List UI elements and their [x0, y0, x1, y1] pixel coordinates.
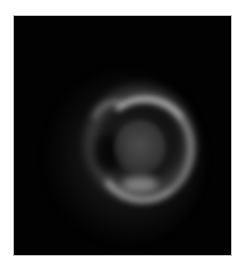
image-panel — [14, 16, 231, 255]
ring-bottom-highlight — [122, 176, 158, 192]
